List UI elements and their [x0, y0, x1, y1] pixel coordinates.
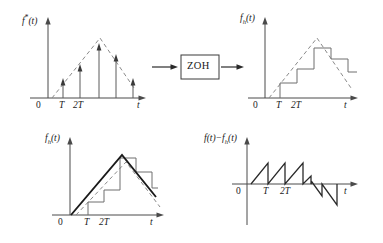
envelope-top-left — [52, 38, 134, 98]
x-axis-arrowhead-top-right — [351, 95, 359, 100]
zoh-input-arrowhead — [171, 64, 179, 69]
ylabel-top-left: f*(t) — [22, 14, 37, 27]
y-axis-arrowhead-top-right — [262, 17, 267, 25]
xlabel-top-left: t — [137, 101, 140, 111]
tick-label-top-right-2T: 2T — [291, 101, 301, 111]
impulse-arrowhead-5 — [131, 78, 136, 86]
figure-root: f*(t) 0 T 2T t ZOH fh(t) 0 T 2T t fh(t) … — [0, 0, 383, 243]
ylabel-bottom-right: f(t)−fh(t) — [204, 134, 237, 145]
panel-bottom-left — [52, 137, 164, 218]
tick-label-bottom-left-2T: 2T — [99, 218, 109, 228]
x-axis-arrowhead-bottom-left — [157, 212, 165, 217]
origin-label-top-left: 0 — [36, 101, 41, 111]
panel-bottom-right — [232, 137, 358, 225]
impulse-arrowhead-1 — [61, 78, 66, 86]
tick-label-bottom-left-T: T — [84, 218, 89, 228]
impulse-arrowhead-3 — [97, 43, 102, 51]
tick-label-bottom-right-T: T — [263, 187, 268, 197]
xlabel-bottom-right: t — [344, 187, 347, 197]
xlabel-top-right: t — [344, 101, 347, 111]
panel-top-right — [248, 17, 358, 101]
envelope-bottom-left — [76, 162, 160, 215]
figure-canvas — [0, 0, 383, 243]
x-axis-arrowhead-bottom-right — [351, 181, 359, 186]
y-axis-arrowhead-bottom-left — [67, 137, 72, 145]
envelope-top-right — [269, 38, 351, 98]
tick-label-bottom-right-2T: 2T — [280, 187, 290, 197]
origin-label-bottom-left: 0 — [58, 218, 63, 228]
origin-label-bottom-right: 0 — [236, 187, 241, 197]
y-axis-arrowhead-top-left — [45, 17, 50, 25]
tick-label-top-left-2T: 2T — [73, 101, 83, 111]
ylabel-bottom-left: fh(t) — [45, 134, 60, 145]
origin-label-top-right: 0 — [253, 101, 258, 111]
y-axis-arrowhead-bottom-right — [244, 137, 249, 145]
impulse-arrowhead-4 — [114, 54, 119, 62]
tick-label-top-right-T: T — [276, 101, 281, 111]
tick-label-top-left-T: T — [59, 101, 64, 111]
xlabel-bottom-left: t — [150, 218, 153, 228]
zoh-output-arrowhead — [237, 64, 245, 69]
ylabel-top-right: fh(t) — [240, 14, 255, 25]
panel-top-left — [30, 17, 146, 101]
staircase-top-right — [280, 48, 357, 98]
zoh-block-label: ZOH — [187, 60, 210, 71]
